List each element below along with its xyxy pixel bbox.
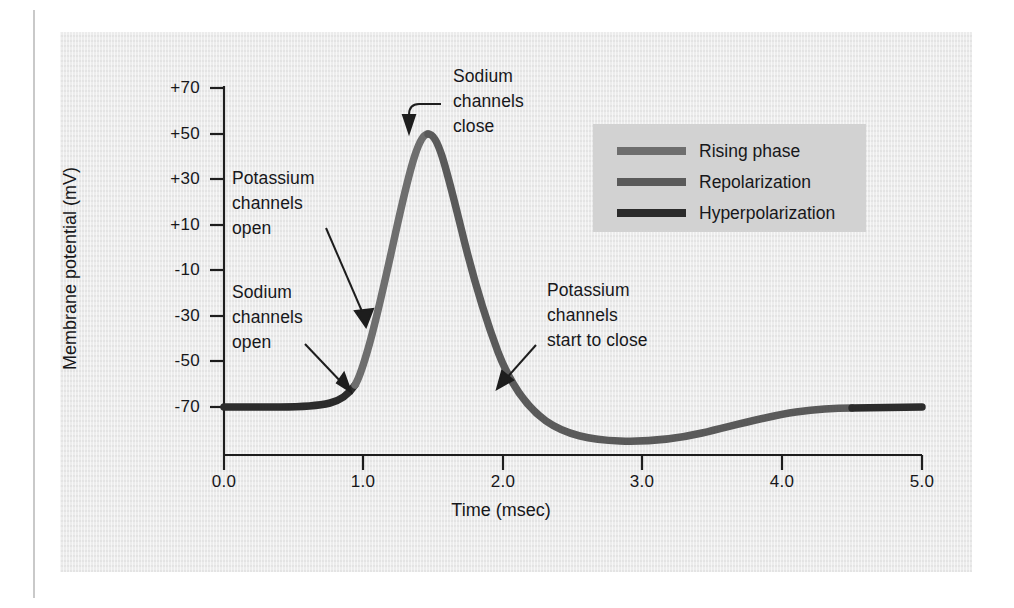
y-tick-label: -10 xyxy=(142,260,200,280)
y-tick-label: -30 xyxy=(142,306,200,326)
legend-swatch-hyperpolarization xyxy=(617,209,686,217)
arrow-sodium-close xyxy=(403,104,441,133)
legend-swatch-repolarization xyxy=(617,178,686,186)
annotation-sodium-channels-close: Sodium channels close xyxy=(453,64,524,139)
x-tick-label: 5.0 xyxy=(892,472,952,492)
annotation-sodium-channels-open: Sodium channels open xyxy=(232,280,303,355)
y-tick-label: -70 xyxy=(142,397,200,417)
chart-legend: Rising phase Repolarization Hyperpolariz… xyxy=(593,124,866,232)
phase-hyperpolarization-final xyxy=(852,407,922,408)
y-tick-label: +10 xyxy=(142,215,200,235)
x-tick-label: 1.0 xyxy=(333,472,393,492)
arrow-potassium-open xyxy=(326,228,373,327)
legend-item-rising-phase: Rising phase xyxy=(617,138,800,164)
legend-swatch-rising-phase xyxy=(617,147,686,155)
x-tick-label: 2.0 xyxy=(473,472,533,492)
legend-item-repolarization: Repolarization xyxy=(617,169,811,195)
annotation-potassium-channels-open: Potassium channels open xyxy=(232,166,315,241)
legend-item-hyperpolarization: Hyperpolarization xyxy=(617,200,835,226)
legend-label-repolarization: Repolarization xyxy=(699,172,811,193)
y-ticks xyxy=(210,88,224,407)
y-tick-label: +30 xyxy=(142,169,200,189)
y-tick-label: +50 xyxy=(142,124,200,144)
x-tick-label: 0.0 xyxy=(194,472,254,492)
y-tick-label: +70 xyxy=(142,78,200,98)
annotation-potassium-channels-start-to-close: Potassium channels start to close xyxy=(547,278,648,353)
x-tick-label: 3.0 xyxy=(612,472,672,492)
x-ticks xyxy=(224,455,922,470)
y-axis-title: Membrane potential (mV) xyxy=(60,159,81,379)
y-tick-label: -50 xyxy=(142,351,200,371)
phase-hyperpolarization-initial xyxy=(224,385,355,407)
arrow-sodium-open xyxy=(305,344,351,392)
x-tick-label: 4.0 xyxy=(752,472,812,492)
legend-label-rising-phase: Rising phase xyxy=(699,141,800,162)
legend-label-hyperpolarization: Hyperpolarization xyxy=(699,203,835,224)
phase-rising xyxy=(355,134,428,385)
x-axis-title: Time (msec) xyxy=(381,500,621,521)
